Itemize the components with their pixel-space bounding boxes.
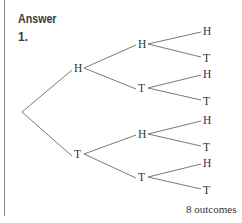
tree-branch bbox=[22, 70, 72, 112]
tree-branch bbox=[148, 177, 201, 189]
tree-node-heads: H bbox=[203, 157, 211, 169]
tree-node-heads: H bbox=[203, 25, 211, 37]
tree-branch bbox=[148, 44, 201, 57]
tree-node-heads: H bbox=[138, 128, 146, 140]
tree-branch bbox=[84, 135, 136, 154]
tree-branch bbox=[148, 32, 201, 44]
tree-node-tails: T bbox=[203, 95, 210, 107]
tree-branch bbox=[148, 75, 201, 88]
tree-nodes: HTHTHTHTHTHTHT bbox=[74, 25, 211, 196]
tree-node-heads: H bbox=[203, 68, 211, 80]
tree-node-tails: T bbox=[138, 171, 145, 183]
tree-node-tails: T bbox=[203, 184, 210, 196]
tree-edges bbox=[22, 32, 201, 189]
tree-branch bbox=[22, 112, 72, 156]
tree-node-tails: T bbox=[138, 82, 145, 94]
tree-branch bbox=[148, 134, 201, 146]
tree-node-tails: T bbox=[203, 141, 210, 153]
tree-node-heads: H bbox=[203, 114, 211, 126]
tree-branch bbox=[148, 121, 201, 134]
tree-branch bbox=[84, 68, 136, 89]
tree-branch bbox=[84, 154, 136, 178]
tree-node-heads: H bbox=[138, 38, 146, 50]
outcomes-note: 8 outcomes bbox=[186, 203, 236, 215]
tree-branch bbox=[148, 164, 201, 177]
tree-node-heads: H bbox=[74, 62, 82, 74]
tree-node-tails: T bbox=[203, 52, 210, 64]
tree-branch bbox=[84, 45, 136, 68]
tree-node-tails: T bbox=[74, 148, 81, 160]
coin-toss-tree-diagram: HTHTHTHTHTHTHT 8 outcomes bbox=[0, 0, 242, 223]
tree-branch bbox=[148, 88, 201, 100]
